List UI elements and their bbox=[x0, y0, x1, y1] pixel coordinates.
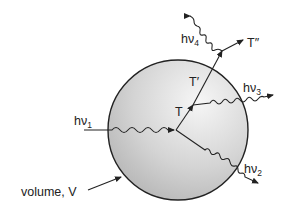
label-hv2: hν2 bbox=[244, 162, 262, 178]
label-hv3: hν3 bbox=[243, 81, 261, 97]
label-T-prime: T′ bbox=[189, 75, 200, 89]
photon-sphere-diagram: hν1 hν2 hν3 hν4 T T′ T″ volume, V bbox=[0, 0, 289, 215]
volume-pointer-arrow bbox=[88, 177, 121, 190]
label-hv4: hν4 bbox=[181, 32, 199, 48]
label-T-double-prime: T″ bbox=[247, 36, 260, 50]
label-hv1: hν1 bbox=[74, 114, 92, 130]
sphere-volume bbox=[108, 60, 248, 200]
label-T: T bbox=[175, 105, 183, 119]
label-volume: volume, V bbox=[21, 185, 77, 199]
